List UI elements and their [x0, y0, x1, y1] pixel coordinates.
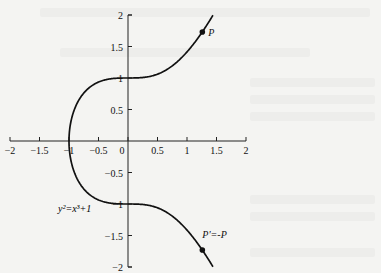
- x-tick-label: 1: [185, 145, 190, 156]
- point-p-label: P: [207, 27, 214, 38]
- x-tick-label: 2: [244, 145, 249, 156]
- x-tick-label: −2: [5, 145, 16, 156]
- point-p-marker: [200, 29, 206, 35]
- x-tick-label: 0.5: [151, 145, 164, 156]
- x-tick-label: 0: [120, 145, 125, 156]
- x-tick-label: −1.5: [30, 145, 48, 156]
- x-tick-label: 1.5: [210, 145, 223, 156]
- curve-points: PP'=-P: [200, 27, 227, 253]
- y-tick-label: 1.5: [111, 42, 124, 53]
- figure: −2−1.5−1−0.500.511.5221.510.5−0.5−1−1.5−…: [0, 0, 381, 273]
- y-tick-label: −0.5: [105, 168, 123, 179]
- y-tick-label: −1.5: [105, 231, 123, 242]
- point-neg-p-label: P'=-P: [201, 229, 226, 240]
- point-neg-p-marker: [200, 247, 206, 253]
- equation-label: y²=x³+1: [57, 203, 91, 214]
- y-tick-label: 0.5: [111, 105, 124, 116]
- y-tick-label: 2: [118, 10, 123, 21]
- x-tick-label: −0.5: [89, 145, 107, 156]
- elliptic-curve-plot: −2−1.5−1−0.500.511.5221.510.5−0.5−1−1.5−…: [0, 0, 381, 273]
- y-tick-label: −2: [112, 262, 123, 273]
